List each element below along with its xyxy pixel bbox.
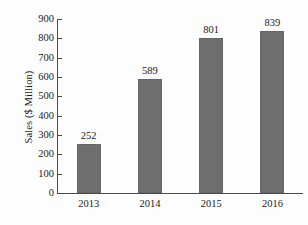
bar-group: 589 — [138, 19, 162, 193]
bar — [260, 31, 284, 193]
y-axis-tick-mark — [58, 154, 62, 155]
y-axis-tick-mark — [58, 58, 62, 59]
y-axis-tick-label: 800 — [28, 33, 54, 43]
y-axis-tick-mark — [58, 116, 62, 117]
y-axis-tick-label: 300 — [28, 130, 54, 140]
x-axis-tick-label: 2014 — [139, 197, 160, 210]
y-axis-tick-label: 700 — [28, 53, 54, 63]
y-axis-tick-labels: 9008007006005004003002001000 — [26, 0, 54, 225]
y-axis-tick-mark — [58, 77, 62, 78]
x-axis-line — [57, 193, 303, 194]
y-axis-tick-mark — [58, 38, 62, 39]
bar — [199, 38, 223, 193]
plot-area: 252589801839 — [58, 19, 303, 193]
y-axis-tick-label: 900 — [28, 14, 54, 24]
y-axis-tick-label: 400 — [28, 111, 54, 121]
x-axis-tick-label: 2013 — [78, 197, 99, 210]
bar-chart: Sales ($ Million) 9008007006005004003002… — [0, 0, 308, 225]
bar-group: 252 — [77, 19, 101, 193]
bar — [138, 79, 162, 193]
bar-value-label: 589 — [142, 65, 158, 76]
bar-group: 801 — [199, 19, 223, 193]
bar-value-label: 801 — [203, 24, 219, 35]
bar-value-label: 839 — [265, 17, 281, 28]
bar — [77, 144, 101, 193]
y-axis-tick-mark — [58, 96, 62, 97]
y-axis-tick-label: 200 — [28, 149, 54, 159]
bar-group: 839 — [260, 19, 284, 193]
bar-value-label: 252 — [81, 130, 97, 141]
y-axis-tick-mark — [58, 193, 62, 194]
x-axis-tick-labels: 2013201420152016 — [58, 197, 303, 213]
x-axis-tick-label: 2015 — [201, 197, 222, 210]
x-axis-tick-label: 2016 — [262, 197, 283, 210]
y-axis-tick-mark — [58, 135, 62, 136]
y-axis-tick-label: 600 — [28, 72, 54, 82]
y-axis-tick-label: 0 — [28, 188, 54, 198]
y-axis-tick-label: 100 — [28, 169, 54, 179]
y-axis-tick-label: 500 — [28, 91, 54, 101]
y-axis-tick-mark — [58, 19, 62, 20]
y-axis-tick-mark — [58, 174, 62, 175]
